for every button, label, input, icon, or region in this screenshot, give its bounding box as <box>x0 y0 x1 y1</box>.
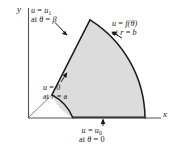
boundary-label-inner-arc: u = 0 at r = a <box>43 83 67 102</box>
equals-sign: = <box>37 6 42 15</box>
u-symbol: u <box>112 19 116 28</box>
boundary-label-outer-arc-line2: at r = b <box>112 28 137 37</box>
a-symbol: a <box>64 92 68 101</box>
theta-symbol: θ <box>39 15 43 24</box>
b-symbol: b <box>133 28 137 37</box>
equals-sign: = <box>49 83 54 92</box>
zero-value: 0 <box>56 83 60 92</box>
leader-arrow-beta <box>55 23 68 36</box>
x-axis-label: x <box>163 109 167 119</box>
equals-sign: = <box>46 15 51 24</box>
equals-sign: = <box>57 92 62 101</box>
boundary-label-upper-radial: u = u1 at θ = β <box>31 6 57 25</box>
u-symbol: u <box>82 126 86 135</box>
equals-sign: = <box>126 28 131 37</box>
polar-region-figure: y x u = u1 at θ = β u = f(θ) at r = b <box>0 0 175 150</box>
at-word: at <box>43 92 49 101</box>
boundary-label-lower-radial: u = u0 at θ = 0 <box>79 126 105 145</box>
boundary-label-upper-radial-line1: u = u1 <box>31 6 57 15</box>
equals-sign: = <box>94 135 99 144</box>
u-symbol: u <box>43 83 47 92</box>
boundary-label-lower-radial-line1: u = u0 <box>79 126 105 135</box>
equals-sign: = <box>88 126 93 135</box>
theta-symbol: θ <box>87 135 91 144</box>
boundary-label-lower-radial-line2: at θ = 0 <box>79 135 105 144</box>
f-theta-symbol: f(θ) <box>125 19 137 28</box>
u-symbol: u <box>31 6 35 15</box>
r-symbol: r <box>120 28 123 37</box>
boundary-label-outer-arc: u = f(θ) at r = b <box>112 19 137 38</box>
r-symbol: r <box>51 92 54 101</box>
boundary-label-inner-arc-line2: at r = a <box>43 92 67 101</box>
zero-value: 0 <box>100 135 104 144</box>
u0-subscript: 0 <box>99 130 102 136</box>
leader-arrow-bottom <box>101 118 106 126</box>
at-word: at <box>112 28 118 37</box>
boundary-label-upper-radial-line2: at θ = β <box>31 15 57 24</box>
boundary-label-outer-arc-line1: u = f(θ) <box>112 19 137 28</box>
at-word: at <box>79 135 85 144</box>
y-axis-label: y <box>17 4 21 14</box>
beta-symbol: β <box>52 15 56 24</box>
boundary-label-inner-arc-line1: u = 0 <box>43 83 67 92</box>
at-word: at <box>31 15 37 24</box>
equals-sign: = <box>118 19 123 28</box>
